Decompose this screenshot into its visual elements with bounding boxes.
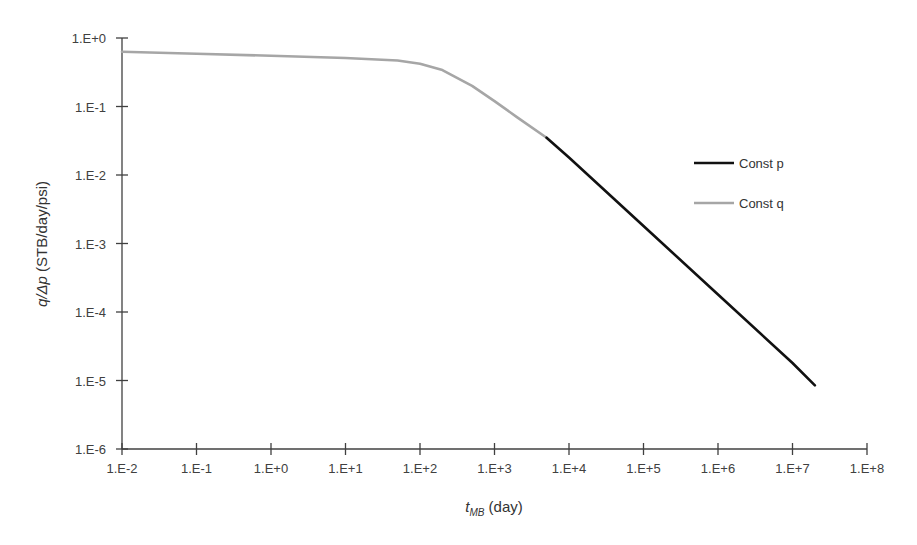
y-tick-label: 1.E+0: [72, 31, 106, 46]
y-tick-label: 1.E-5: [75, 374, 106, 389]
x-tick-label: 1.E-2: [106, 461, 137, 476]
x-axis-title: tMB (day): [465, 498, 523, 518]
y-tick-label: 1.E-1: [75, 100, 106, 115]
legend: Const pConst q: [694, 156, 784, 211]
x-tick-label: 1.E+1: [328, 461, 362, 476]
x-tick-label: 1.E+4: [552, 461, 586, 476]
x-tick-label: 1.E+3: [477, 461, 511, 476]
legend-label: Const p: [739, 156, 784, 171]
x-tick-label: 1.E-1: [181, 461, 212, 476]
x-tick-label: 1.E+5: [626, 461, 660, 476]
series-line-const-p: [547, 138, 815, 386]
x-tick-label: 1.E+7: [775, 461, 809, 476]
chart: 1.E-21.E-11.E+01.E+11.E+21.E+31.E+41.E+5…: [0, 0, 917, 545]
y-tick-label: 1.E-6: [75, 442, 106, 457]
x-tick-label: 1.E+6: [701, 461, 735, 476]
x-tick-label: 1.E+8: [850, 461, 884, 476]
y-axis-title: q/Δp (STB/day/psi): [33, 181, 50, 307]
series-lines: [122, 52, 815, 386]
series-line-const-q: [122, 52, 547, 138]
x-tick-label: 1.E+0: [254, 461, 288, 476]
y-tick-label: 1.E-2: [75, 168, 106, 183]
axes: 1.E-21.E-11.E+01.E+11.E+21.E+31.E+41.E+5…: [72, 31, 885, 476]
y-tick-label: 1.E-3: [75, 237, 106, 252]
x-tick-label: 1.E+2: [403, 461, 437, 476]
y-tick-label: 1.E-4: [75, 305, 106, 320]
legend-label: Const q: [739, 196, 784, 211]
